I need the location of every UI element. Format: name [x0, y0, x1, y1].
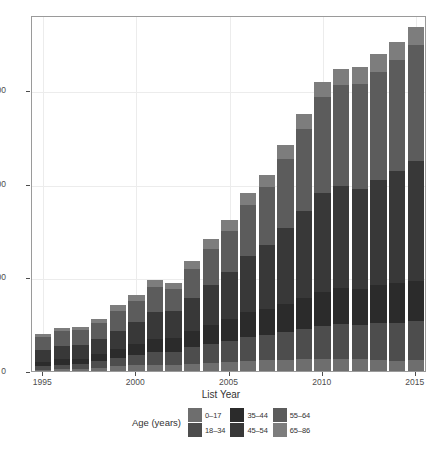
bar-segment-65-86[interactable] [352, 67, 368, 83]
bar-2014[interactable] [389, 42, 405, 371]
bar-2006[interactable] [240, 193, 256, 371]
bar-segment-55-64[interactable] [147, 287, 163, 312]
bar-segment-35-44[interactable] [277, 304, 293, 332]
bar-segment-18-34[interactable] [184, 347, 200, 363]
bar-segment-35-44[interactable] [203, 325, 219, 344]
bar-segment-65-86[interactable] [184, 261, 200, 269]
bar-segment-18-34[interactable] [35, 366, 51, 370]
bar-2007[interactable] [259, 175, 275, 371]
bar-segment-55-64[interactable] [221, 231, 237, 273]
bar-segment-35-44[interactable] [370, 285, 386, 323]
bar-2004[interactable] [203, 239, 219, 371]
bar-segment-45-54[interactable] [165, 311, 181, 338]
bar-segment-45-54[interactable] [72, 345, 88, 359]
bar-segment-18-34[interactable] [110, 358, 126, 366]
bar-segment-35-44[interactable] [240, 312, 256, 337]
bar-segment-0-17[interactable] [35, 370, 51, 371]
bar-segment-55-64[interactable] [333, 85, 349, 185]
bar-segment-0-17[interactable] [203, 363, 219, 371]
bar-segment-55-64[interactable] [370, 72, 386, 181]
bar-segment-45-54[interactable] [314, 193, 330, 292]
bar-segment-35-44[interactable] [184, 331, 200, 347]
bar-segment-0-17[interactable] [72, 369, 88, 371]
bar-segment-65-86[interactable] [296, 114, 312, 129]
bar-segment-45-54[interactable] [35, 350, 51, 361]
bar-segment-35-44[interactable] [128, 344, 144, 355]
bar-segment-55-64[interactable] [277, 159, 293, 228]
bar-2008[interactable] [277, 145, 293, 371]
bar-segment-65-86[interactable] [165, 283, 181, 289]
bar-segment-18-34[interactable] [277, 332, 293, 359]
bar-segment-45-54[interactable] [389, 171, 405, 283]
bar-segment-45-54[interactable] [128, 322, 144, 344]
bar-segment-65-86[interactable] [259, 175, 275, 187]
bar-segment-35-44[interactable] [54, 359, 70, 364]
bar-2015[interactable] [408, 27, 424, 371]
bar-segment-55-64[interactable] [408, 45, 424, 160]
bar-segment-45-54[interactable] [147, 312, 163, 339]
bar-segment-35-44[interactable] [110, 349, 126, 358]
bar-segment-18-34[interactable] [314, 326, 330, 359]
bar-segment-65-86[interactable] [333, 69, 349, 85]
bar-segment-45-54[interactable] [277, 228, 293, 304]
bar-1995[interactable] [35, 334, 51, 371]
bar-segment-55-64[interactable] [203, 249, 219, 285]
bar-segment-35-44[interactable] [35, 362, 51, 366]
bar-segment-35-44[interactable] [259, 309, 275, 335]
bar-segment-45-54[interactable] [259, 245, 275, 308]
bar-2013[interactable] [370, 54, 386, 371]
bar-segment-65-86[interactable] [110, 305, 126, 311]
bar-segment-0-17[interactable] [184, 364, 200, 371]
bar-segment-0-17[interactable] [370, 360, 386, 371]
bar-1997[interactable] [72, 327, 88, 371]
bar-segment-55-64[interactable] [165, 289, 181, 311]
bar-segment-65-86[interactable] [147, 280, 163, 287]
bar-segment-35-44[interactable] [165, 338, 181, 351]
bar-segment-18-34[interactable] [54, 365, 70, 369]
bar-2000[interactable] [128, 295, 144, 371]
bar-segment-45-54[interactable] [352, 189, 368, 289]
bar-segment-0-17[interactable] [333, 359, 349, 371]
legend-item-55-64[interactable]: 55–64 [273, 408, 310, 422]
bar-segment-55-64[interactable] [91, 323, 107, 339]
bar-segment-65-86[interactable] [72, 327, 88, 330]
bar-segment-65-86[interactable] [54, 328, 70, 331]
bar-segment-0-17[interactable] [54, 369, 70, 371]
bar-segment-45-54[interactable] [91, 339, 107, 354]
bar-segment-45-54[interactable] [184, 298, 200, 331]
bar-segment-0-17[interactable] [296, 359, 312, 371]
bar-segment-65-86[interactable] [203, 239, 219, 248]
bar-segment-0-17[interactable] [128, 365, 144, 371]
bar-segment-65-86[interactable] [91, 319, 107, 323]
bar-segment-45-54[interactable] [203, 285, 219, 324]
bar-segment-0-17[interactable] [277, 360, 293, 371]
bar-segment-35-44[interactable] [333, 288, 349, 324]
bar-segment-65-86[interactable] [370, 54, 386, 71]
bar-segment-35-44[interactable] [314, 292, 330, 326]
bar-segment-45-54[interactable] [110, 331, 126, 349]
bar-segment-55-64[interactable] [35, 337, 51, 350]
bar-2009[interactable] [296, 114, 312, 371]
bar-segment-0-17[interactable] [389, 361, 405, 371]
bar-segment-0-17[interactable] [314, 359, 330, 371]
bar-segment-65-86[interactable] [128, 295, 144, 301]
bar-segment-35-44[interactable] [72, 359, 88, 365]
bar-1998[interactable] [91, 319, 107, 371]
bar-segment-18-34[interactable] [259, 335, 275, 360]
bar-2010[interactable] [314, 82, 330, 371]
bar-segment-0-17[interactable] [147, 365, 163, 371]
bar-segment-35-44[interactable] [389, 283, 405, 322]
bar-2011[interactable] [333, 69, 349, 371]
bar-segment-18-34[interactable] [389, 323, 405, 361]
bar-segment-18-34[interactable] [147, 352, 163, 365]
bar-segment-18-34[interactable] [203, 344, 219, 363]
bar-2002[interactable] [165, 283, 181, 371]
bar-2005[interactable] [221, 220, 237, 371]
bar-segment-35-44[interactable] [352, 289, 368, 325]
bar-segment-55-64[interactable] [240, 205, 256, 256]
bar-segment-0-17[interactable] [91, 368, 107, 371]
bar-segment-18-34[interactable] [165, 352, 181, 365]
bar-segment-0-17[interactable] [352, 359, 368, 371]
legend-item-65-86[interactable]: 65–86 [273, 423, 310, 437]
bar-segment-18-34[interactable] [128, 355, 144, 365]
